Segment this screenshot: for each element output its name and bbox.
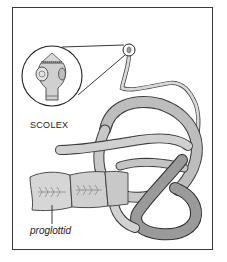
tapeworm-illustration bbox=[0, 0, 227, 262]
proglottid-label: proglottid bbox=[30, 225, 71, 236]
proglottid-segments bbox=[30, 171, 128, 210]
body-coils bbox=[60, 102, 197, 234]
scolex-label: SCOLEX bbox=[30, 120, 68, 130]
scolex-magnifier bbox=[22, 46, 82, 106]
scolex-tip-callout bbox=[123, 44, 135, 56]
